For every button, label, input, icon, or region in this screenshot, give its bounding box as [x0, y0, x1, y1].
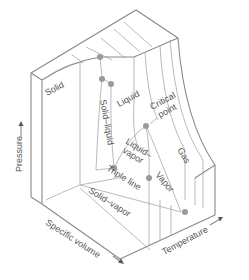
label-solid: Solid [43, 80, 65, 98]
label-solid-vapor: Solid–vapor [87, 185, 133, 219]
liquid-vapor-dome [114, 126, 181, 212]
point-vapor [182, 209, 188, 215]
triple-point-vapor [146, 175, 152, 181]
label-gas: Gas [175, 146, 192, 166]
pressure-arrowhead-icon [19, 121, 24, 126]
label-liquid: Liquid [115, 89, 141, 109]
top-hatch-lines [72, 22, 152, 62]
label-vapor: Vapor [153, 170, 176, 194]
critical-point [143, 123, 149, 129]
axis-label-specific-volume: Specific volume [44, 217, 102, 260]
label-solid-liquid: Solid–liquid [98, 99, 116, 146]
label-triple-line: Triple line [105, 163, 143, 192]
point-solid-liquid-a [99, 76, 105, 82]
point-solid-liquid-top [97, 54, 103, 60]
axis-label-pressure: Pressure [14, 136, 24, 172]
volume-arrowhead-icon [118, 259, 124, 265]
critical-point-arrow [150, 118, 157, 124]
point-solid-liquid-b [108, 81, 114, 87]
surface-outline [31, 10, 215, 259]
temperature-arrow-icon [210, 219, 220, 225]
pvt-surface-diagram: Solid Solid–liquid Liquid Critical point… [0, 0, 249, 280]
